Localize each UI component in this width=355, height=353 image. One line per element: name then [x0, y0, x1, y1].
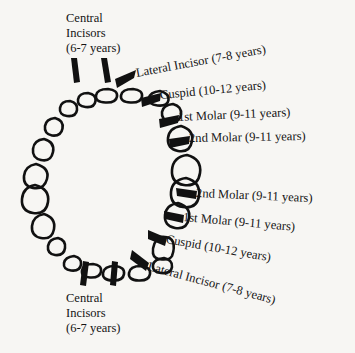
label-upper-central-line2: Incisors	[66, 26, 121, 41]
tooth-upper-left-central	[96, 89, 117, 103]
dental-arch-illustration	[0, 0, 355, 353]
leader-lower-molar2	[176, 188, 197, 199]
label-upper-central-incisors: Central Incisors (6-7 years)	[66, 11, 121, 55]
label-upper-second-molar: 2nd Molar (9-11 years)	[189, 129, 306, 146]
label-lower-central-line1: Central	[66, 291, 121, 306]
dental-eruption-diagram: Central Incisors (6-7 years) Lateral Inc…	[0, 0, 355, 353]
label-upper-central-line1: Central	[66, 11, 121, 26]
leader-upper-central-left	[71, 58, 80, 83]
tooth-lower-left-cuspid	[48, 238, 65, 255]
label-lower-central-incisors: Central Incisors (6-7 years)	[66, 291, 121, 335]
tooth-lower-left-lateral	[64, 256, 81, 271]
label-upper-central-line3: (6-7 years)	[66, 41, 121, 56]
leader-upper-lateral	[115, 70, 136, 88]
tooth-upper-left-cuspid	[45, 118, 63, 136]
tooth-lower-left-molar1	[32, 214, 54, 238]
label-lower-central-line2: Incisors	[66, 306, 121, 321]
leader-upper-molar2	[169, 136, 190, 148]
leader-lower-central-right	[110, 261, 118, 286]
label-lower-central-line3: (6-7 years)	[66, 321, 121, 336]
leader-upper-central-right	[101, 58, 111, 83]
tooth-upper-left-lateral	[60, 101, 77, 116]
tooth-upper-left-lateral2	[78, 93, 96, 107]
tooth-upper-left-molar1	[33, 139, 53, 160]
tooth-upper-right-central	[121, 89, 142, 103]
